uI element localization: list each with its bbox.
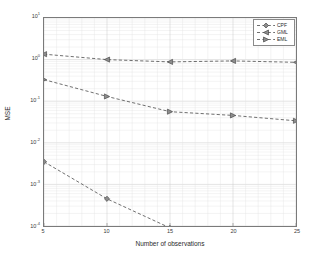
x-tick-label: 15 bbox=[167, 229, 173, 235]
legend-box: CPFGMLEML bbox=[253, 19, 295, 46]
legend-marker-triangle-left bbox=[256, 29, 276, 36]
legend-item-cpf[interactable]: CPF bbox=[256, 22, 292, 29]
legend-item-gml[interactable]: GML bbox=[256, 29, 292, 36]
legend-label: EML bbox=[277, 36, 287, 43]
figure-canvas: 10110010-110-210-310-4 510152025 Number … bbox=[0, 0, 322, 258]
y-tick-label: 10-3 bbox=[30, 182, 40, 188]
x-axis-label: Number of observations bbox=[43, 240, 297, 247]
x-tick-label: 10 bbox=[103, 229, 109, 235]
legend-label: GML bbox=[277, 29, 288, 36]
plot-area bbox=[43, 17, 297, 227]
data-series-layer bbox=[44, 18, 296, 226]
legend-item-eml[interactable]: EML bbox=[256, 36, 292, 43]
legend-marker-diamond bbox=[256, 22, 276, 29]
series-cpf bbox=[44, 159, 296, 226]
x-tick-label: 25 bbox=[294, 229, 300, 235]
y-axis-label: MSE bbox=[4, 94, 11, 134]
y-tick-label: 100 bbox=[32, 56, 40, 62]
series-eml bbox=[44, 77, 296, 123]
y-tick-label: 10-2 bbox=[30, 140, 40, 146]
legend-marker-triangle-right bbox=[256, 36, 276, 43]
y-tick-label: 101 bbox=[32, 14, 40, 20]
series-gml bbox=[44, 52, 296, 65]
y-tick-label: 10-1 bbox=[30, 98, 40, 104]
legend-label: CPF bbox=[277, 22, 287, 29]
y-tick-label: 10-4 bbox=[30, 224, 40, 230]
x-tick-label: 20 bbox=[230, 229, 236, 235]
x-tick-label: 5 bbox=[41, 229, 44, 235]
